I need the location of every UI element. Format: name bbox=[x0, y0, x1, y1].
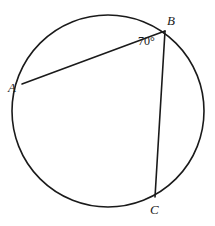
circle-geometry-figure bbox=[0, 0, 215, 226]
point-label-a: A bbox=[8, 81, 16, 94]
circle-outline bbox=[12, 15, 204, 207]
angle-measure-label: 70° bbox=[138, 35, 155, 47]
chord-bc bbox=[155, 31, 165, 197]
geometry-diagram-canvas: A B C 70° bbox=[0, 0, 215, 226]
point-label-c: C bbox=[150, 203, 159, 216]
point-label-b: B bbox=[167, 14, 175, 27]
